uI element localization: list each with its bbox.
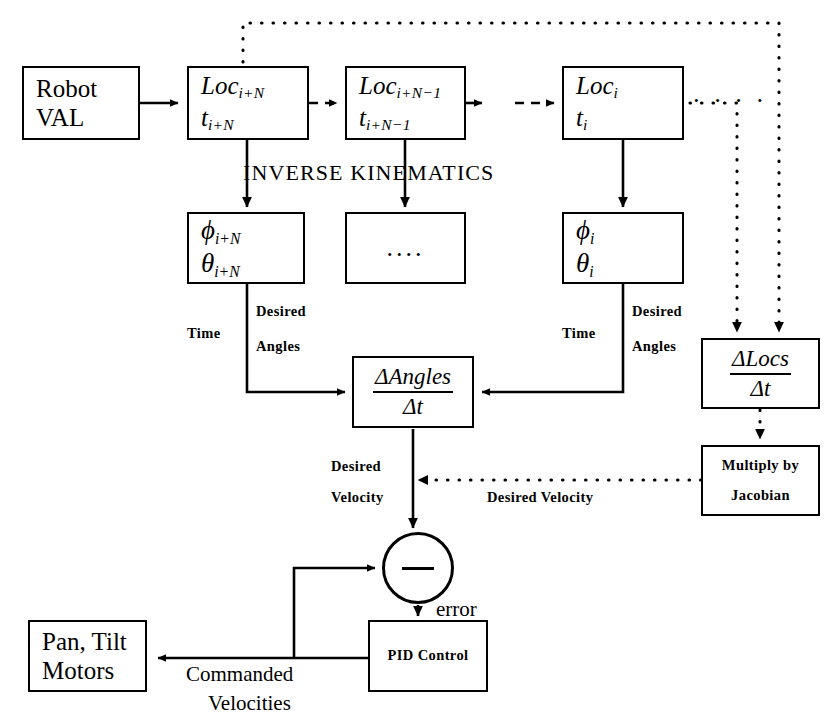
delta-angles-denominator: Δt <box>373 393 453 420</box>
node-multiply-by-jacobian[interactable]: Multiply by Jacobian <box>701 445 820 516</box>
node-pan-tilt-motors[interactable]: Pan, Tilt Motors <box>28 620 147 692</box>
node-angles-i-plus-n[interactable]: ϕi+N θi+N <box>187 212 305 284</box>
label-desired-right-1: Desired <box>632 303 682 320</box>
angles-ipn-theta: θi+N <box>201 248 240 281</box>
label-time-right: Time <box>562 325 596 342</box>
loc-ipn-line2: ti+N <box>201 103 234 135</box>
loc-ipn1-line1: Loci+N−1 <box>359 71 441 103</box>
wire-anglesi-to-deltaangles <box>482 284 623 392</box>
loc-ipn-line1: Loci+N <box>201 71 265 103</box>
label-desired-velocity-dotted: Desired Velocity <box>487 489 593 506</box>
label-commanded-2: Velocities <box>208 691 291 716</box>
label-commanded-1: Commanded <box>186 662 293 687</box>
label-time-left: Time <box>187 325 221 342</box>
delta-angles-fraction: ΔAngles Δt <box>373 364 453 420</box>
node-pid-control[interactable]: PID Control <box>368 620 488 692</box>
label-desired-right-2: Angles <box>632 338 676 355</box>
loc-i-line1: Loci <box>576 71 618 103</box>
top-row-ellipsis: · · · · <box>692 86 767 116</box>
diagram-canvas: Robot VAL Loci+N ti+N Loci+N−1 ti+N−1 Lo… <box>0 0 839 728</box>
pan-tilt-line2: Motors <box>42 656 114 686</box>
delta-angles-numerator: ΔAngles <box>373 364 453 393</box>
label-error: error <box>436 597 477 622</box>
node-angles-ellipsis[interactable]: .... <box>345 212 466 284</box>
delta-locs-denominator: Δt <box>730 375 791 402</box>
pan-tilt-line1: Pan, Tilt <box>42 627 127 657</box>
jacobian-line1: Multiply by <box>722 457 799 474</box>
angles-i-theta: θi <box>576 248 594 281</box>
minus-sign-icon <box>402 567 434 570</box>
node-loc-i-plus-n[interactable]: Loci+N ti+N <box>187 66 309 140</box>
angles-ipn-phi: ϕi+N <box>201 215 240 248</box>
node-loc-i-plus-n-minus-1[interactable]: Loci+N−1 ti+N−1 <box>345 66 466 140</box>
label-desired-velocity-left-1: Desired <box>331 458 381 475</box>
robot-val-line1: Robot <box>36 74 97 104</box>
jacobian-line2: Jacobian <box>731 487 790 504</box>
angles-i-phi: ϕi <box>576 215 594 248</box>
node-loc-i[interactable]: Loci ti <box>562 66 684 140</box>
node-robot-val[interactable]: Robot VAL <box>22 66 140 140</box>
loc-ipn1-line2: ti+N−1 <box>359 103 411 135</box>
label-desired-left-1: Desired <box>256 303 306 320</box>
label-desired-velocity-left-2: Velocity <box>331 489 384 506</box>
node-delta-angles[interactable]: ΔAngles Δt <box>352 356 474 428</box>
loc-i-line2: ti <box>576 103 588 135</box>
wire-feedback-to-sum <box>294 568 375 658</box>
label-desired-left-2: Angles <box>256 338 300 355</box>
inverse-kinematics-label: INVERSE KINEMATICS <box>243 160 494 186</box>
delta-locs-numerator: ΔLocs <box>730 346 791 375</box>
dotted-loci-to-deltalocs <box>690 103 737 332</box>
angles-ellipsis-text: .... <box>387 233 425 264</box>
node-angles-i[interactable]: ϕi θi <box>562 212 684 284</box>
node-delta-locs[interactable]: ΔLocs Δt <box>701 338 820 409</box>
robot-val-line2: VAL <box>36 103 84 133</box>
delta-locs-fraction: ΔLocs Δt <box>730 346 791 402</box>
pid-control-text: PID Control <box>387 647 468 664</box>
